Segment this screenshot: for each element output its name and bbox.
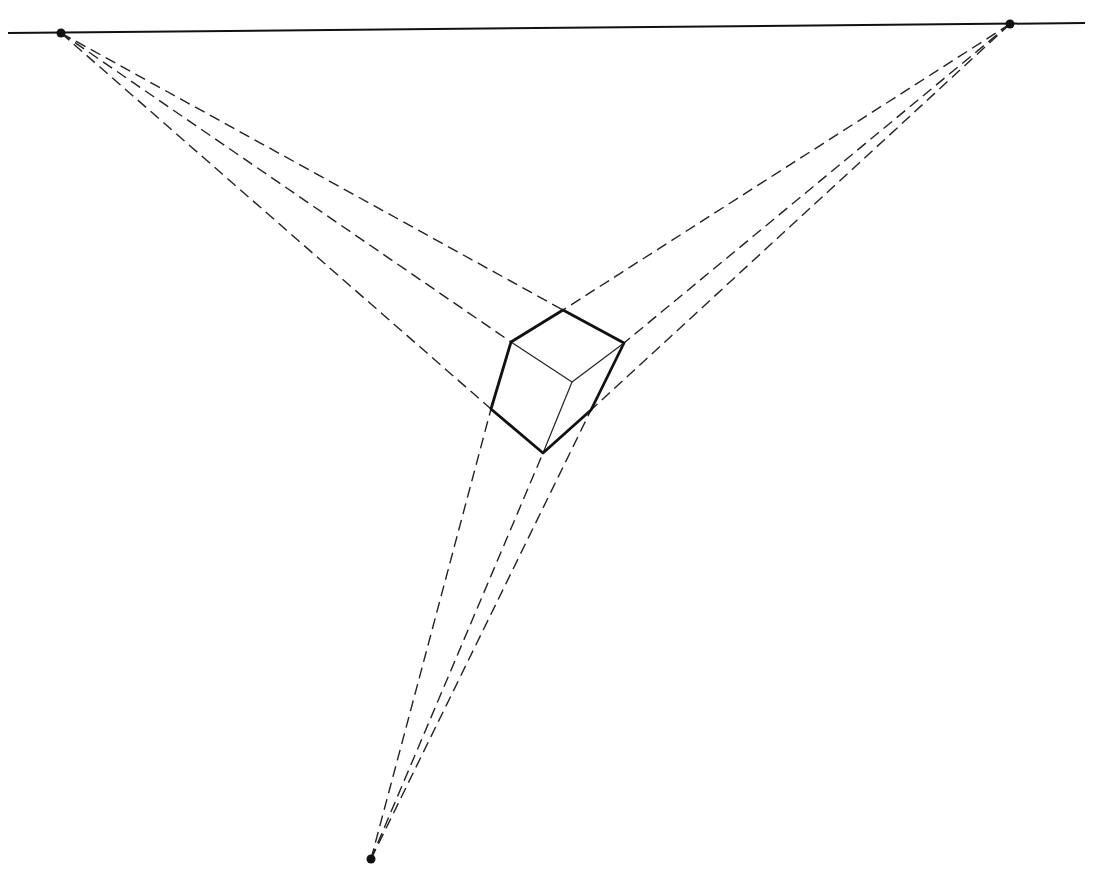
- construction-line-vp-bottom-right-bottom: [371, 410, 591, 859]
- vp-left-dot-icon: [57, 29, 66, 38]
- vp-right-dot-icon: [1006, 20, 1015, 29]
- cube-edge-front-top-right-top: [572, 343, 624, 382]
- construction-line-vp-left-left-top: [61, 33, 511, 342]
- perspective-diagram: [0, 0, 1102, 887]
- horizon-line: [8, 23, 1085, 33]
- construction-line-vp-right-right-bottom: [591, 24, 1010, 410]
- construction-line-vp-left-top-back: [61, 33, 563, 310]
- construction-line-vp-right-right-top: [624, 24, 1010, 343]
- diagram-canvas: [0, 0, 1102, 887]
- vp-bottom-dot-icon: [367, 855, 376, 864]
- cube-edge-front-top-bottom: [543, 382, 572, 453]
- construction-line-vp-bottom-left-bottom: [371, 409, 491, 859]
- cube-edge-left-top-front-top: [511, 342, 572, 382]
- construction-line-vp-bottom-bottom: [371, 453, 543, 859]
- construction-lines: [61, 24, 1010, 859]
- cube-outline: [491, 310, 624, 453]
- construction-line-vp-right-top-back: [563, 24, 1010, 310]
- vanishing-points: [57, 20, 1015, 864]
- cube-inner-edges: [511, 342, 624, 453]
- construction-line-vp-left-left-bottom: [61, 33, 491, 409]
- cube: [491, 310, 624, 453]
